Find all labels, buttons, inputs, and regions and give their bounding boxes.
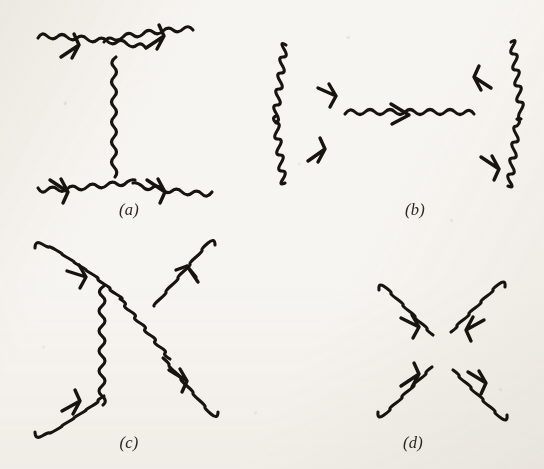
panel-b-leg-upper-right [511,41,524,119]
panel-b-leg-upper-left [274,44,287,122]
panel-d-diagram [378,282,507,420]
feynman-diagram-canvas: (a) (b) (c) (d) [0,0,544,469]
panel-c-leg-upper-left [35,243,122,299]
panel-a-internal-propagator [112,57,117,177]
panel-b-arrow-upper-right [474,66,491,90]
panel-c-label: (c) [119,433,138,452]
panel-c-diagram [35,240,218,437]
panel-b-leg-lower-left [274,116,286,184]
panel-c-leg-upper-left-continued [120,299,170,359]
panel-d-leg-lower-left [378,367,432,417]
panel-a-arrow-lower-right [147,179,165,203]
panel-b-arrow-upper-left [318,84,336,107]
panel-d-leg-upper-left [379,285,433,335]
panel-c-internal-propagator [99,286,105,405]
figure-root: (a) (b) (c) (d) [0,0,544,469]
panel-c-arrow-lower-right [169,369,187,392]
panel-b-arrow-lower-left [308,138,325,162]
panel-a-arrow-upper-right [146,25,164,49]
panel-c-leg-upper-right [154,240,215,306]
panel-b-leg-lower-right [508,119,520,187]
panel-c-arrow-lower-left [62,390,80,414]
panel-c-leg-lower-left [35,396,104,437]
panel-c-leg-lower-right [163,358,218,417]
panel-a-leg-upper-left [38,34,145,47]
panel-d-label: (d) [403,433,423,452]
panel-d-arrow-upper-right [466,317,484,341]
panel-a-label: (a) [119,200,139,219]
panel-a-leg-upper-right [104,27,193,42]
panel-b-diagram [274,41,524,187]
panel-a-leg-lower-right [133,183,212,196]
panel-a-diagram [38,25,212,203]
panel-b-arrow-lower-right [481,156,499,180]
panel-b-label: (b) [405,200,425,219]
